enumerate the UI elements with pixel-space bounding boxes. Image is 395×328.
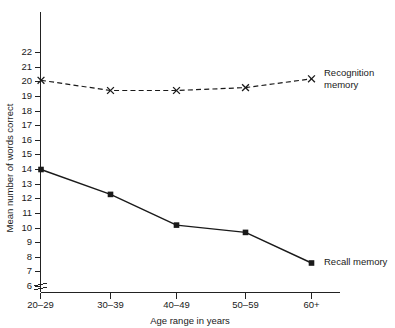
x-tick-label-50-59: 50–59 xyxy=(232,299,258,310)
y-tick-label-12: 12 xyxy=(21,192,32,203)
recall-memory-marker-0 xyxy=(38,167,44,173)
y-tick-label-22: 22 xyxy=(21,46,32,57)
y-tick-label-21: 21 xyxy=(21,61,32,72)
recognition-memory-line xyxy=(41,79,312,91)
recall-memory-marker-4 xyxy=(309,260,315,266)
y-tick-label-8: 8 xyxy=(27,251,32,262)
annotation-recognition-memory: Recognition memory xyxy=(324,67,374,90)
series-recall-memory xyxy=(38,167,314,266)
y-tick-label-7: 7 xyxy=(27,265,32,276)
recall-memory-line xyxy=(41,170,312,264)
y-tick-label-6: 6 xyxy=(27,280,32,291)
y-tick-label-14: 14 xyxy=(21,163,32,174)
y-tick-label-18: 18 xyxy=(21,105,32,116)
y-tick-label-13: 13 xyxy=(21,178,32,189)
y-tick-label-10: 10 xyxy=(21,222,32,233)
chart-container: 22 21 20 19 18 17 16 15 14 13 12 11 xyxy=(0,0,395,328)
series-recognition-memory xyxy=(38,75,315,94)
x-tick-label-30-39: 30–39 xyxy=(97,299,123,310)
x-tick-label-40-49: 40–49 xyxy=(163,299,189,310)
y-tick-label-19: 19 xyxy=(21,90,32,101)
annotation-recall: Recall memory xyxy=(324,256,388,267)
y-tick-label-20: 20 xyxy=(21,75,32,86)
y-tick-label-11: 11 xyxy=(22,207,32,218)
line-chart: 22 21 20 19 18 17 16 15 14 13 12 11 xyxy=(0,0,395,328)
x-tick-label-60-plus: 60+ xyxy=(303,299,320,310)
y-tick-label-16: 16 xyxy=(21,134,32,145)
annotation-recall-memory: Recall memory xyxy=(324,256,388,267)
recall-memory-marker-2 xyxy=(174,222,180,228)
recall-memory-marker-3 xyxy=(243,230,249,236)
x-axis-title: Age range in years xyxy=(150,315,230,326)
y-tick-label-9: 9 xyxy=(27,236,32,247)
annotation-recognition-line2: memory xyxy=(324,79,359,90)
axes-group xyxy=(41,12,341,293)
x-ticks-group: 20–29 30–39 40–49 50–59 60+ xyxy=(27,293,320,311)
y-tick-label-17: 17 xyxy=(21,119,32,130)
y-axis-title: Mean number of words correct xyxy=(4,103,15,232)
y-tick-label-15: 15 xyxy=(21,148,32,159)
annotation-recognition-line1: Recognition xyxy=(324,67,374,78)
x-tick-label-20-29: 20–29 xyxy=(27,299,53,310)
recall-memory-marker-1 xyxy=(108,192,114,198)
recognition-memory-marker-4 xyxy=(308,75,315,82)
